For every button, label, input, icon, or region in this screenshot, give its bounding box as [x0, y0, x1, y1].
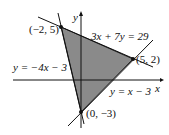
vertex-label: (−2, 5) — [29, 24, 59, 35]
vertex-point — [131, 57, 135, 61]
equation-label: 3x + 7y = 29 — [91, 31, 149, 42]
vertex-point — [59, 25, 63, 29]
diagram: y x (−2, 5) (5, 2) (0, −3) 3x + 7y = 29 … — [0, 0, 169, 135]
y-axis-label: y — [73, 12, 78, 23]
vertex-point — [79, 110, 83, 114]
y-axis-arrow-icon — [79, 11, 83, 16]
vertex-label: (5, 2) — [136, 54, 160, 65]
equation-label: y = −4x − 3 — [13, 62, 67, 73]
vertex-label: (0, −3) — [86, 108, 116, 119]
x-axis-arrow-icon — [160, 78, 164, 82]
equation-label: y = x − 3 — [110, 86, 151, 97]
x-axis-label: x — [155, 83, 160, 94]
